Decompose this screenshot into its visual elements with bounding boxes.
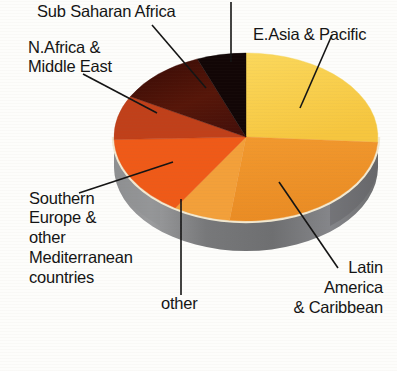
label-n-africa-middle-east-line2: Middle East [28,57,112,77]
label-southern-europe-line4: Mediterranean [29,248,133,268]
label-sub-saharan-africa: Sub Saharan Africa [37,2,176,22]
label-latin-america-line2: America [222,278,383,298]
label-other: other [161,294,198,314]
label-southern-europe-line3: other [29,228,66,248]
pie-slice-e-asia-pacific[interactable] [246,53,378,142]
pie-chart-figure: Sub Saharan Africa N.Africa & Middle Eas… [0,0,397,371]
label-southern-europe-line5: countries [29,268,94,288]
label-n-africa-middle-east-line1: N.Africa & [28,38,100,58]
pie-slices [114,53,378,221]
label-latin-america-line3: & Caribbean [222,298,383,318]
label-latin-america-line1: Latin [222,258,383,278]
label-southern-europe-line2: Europe & [29,208,96,228]
label-southern-europe-line1: Southern [29,189,94,209]
label-e-asia-pacific: E.Asia & Pacific [253,25,366,45]
